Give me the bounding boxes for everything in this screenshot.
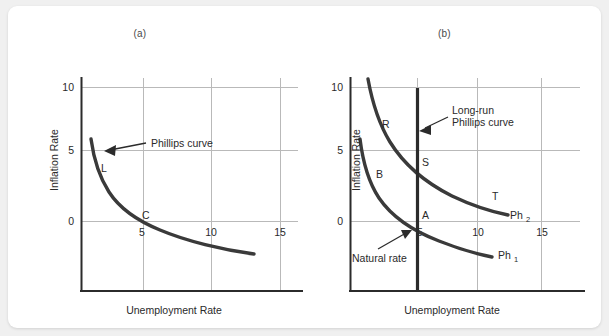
- point-label-T: T: [492, 190, 499, 202]
- panel-a-spines: [80, 77, 303, 291]
- curve-label-ph1: Ph 1: [498, 249, 518, 264]
- xtick-label-10: 10: [472, 226, 484, 238]
- figure-card: (a) 10 5 0: [8, 6, 601, 328]
- arrowhead-icon: [419, 125, 431, 135]
- natural-rate-callout: Natural rate: [352, 252, 407, 264]
- panel-a-yaxis-title: Inflation Rate: [48, 129, 60, 191]
- curve-label-ph1-base: Ph: [498, 249, 511, 261]
- curve-helper: [92, 126, 109, 154]
- point-label-A: A: [422, 209, 429, 221]
- panel-a-gridlines: [81, 78, 298, 291]
- point-label-C: C: [142, 209, 150, 221]
- long-run-annotation: Long-run Phillips curve: [419, 104, 514, 135]
- panel-b-xaxis-title: Unemployment Rate: [352, 304, 552, 316]
- natural-rate-leader-line: [378, 233, 406, 249]
- panel-a-ytick-labels: 10 5 0: [62, 81, 74, 227]
- ytick-label-5: 5: [337, 144, 343, 156]
- xtick-label-15: 15: [536, 226, 548, 238]
- xtick-label-10: 10: [205, 226, 217, 238]
- phillips-curve-annotation: Phillips curve: [104, 137, 213, 156]
- short-run-phillips-curve: [91, 139, 254, 254]
- ytick-label-0: 0: [68, 215, 74, 227]
- short-run-phillips-curve-ph2: [368, 79, 508, 215]
- curve-label-ph2-base: Ph: [510, 209, 523, 221]
- point-label-B: B: [376, 168, 383, 180]
- ytick-label-5: 5: [68, 144, 74, 156]
- panel-b-yaxis-title: Inflation Rate: [350, 129, 362, 191]
- panel-a-xaxis-title: Unemployment Rate: [74, 304, 274, 316]
- long-run-callout-line2: Phillips curve: [452, 116, 514, 128]
- arrowhead-icon: [104, 145, 116, 156]
- point-label-S: S: [422, 156, 429, 168]
- point-label-R: R: [382, 118, 390, 130]
- curve-label-ph1-sub: 1: [514, 255, 518, 264]
- long-run-callout-line1: Long-run: [452, 104, 494, 116]
- xtick-label-15: 15: [274, 226, 286, 238]
- ytick-label-10: 10: [331, 81, 343, 93]
- panel-b-ytick-labels: 10 5 0: [331, 81, 343, 227]
- xtick-label-5: 5: [139, 226, 145, 238]
- panel-b-xtick-labels: 5 10 15: [417, 226, 548, 238]
- curve-label-ph2-sub: 2: [526, 215, 530, 224]
- panel-b: (b) 10 5 0: [300, 6, 601, 328]
- ytick-label-0: 0: [337, 215, 343, 227]
- panel-b-point-labels: R S T B A: [376, 118, 499, 221]
- panel-b-plot: 10 5 0 5 10 15 R S T B A: [300, 6, 601, 328]
- panel-a: (a) 10 5 0: [8, 6, 308, 328]
- phillips-curve-callout: Phillips curve: [151, 137, 213, 149]
- ytick-label-10: 10: [62, 81, 74, 93]
- point-label-L: L: [101, 162, 107, 174]
- natural-rate-annotation: Natural rate: [352, 230, 412, 264]
